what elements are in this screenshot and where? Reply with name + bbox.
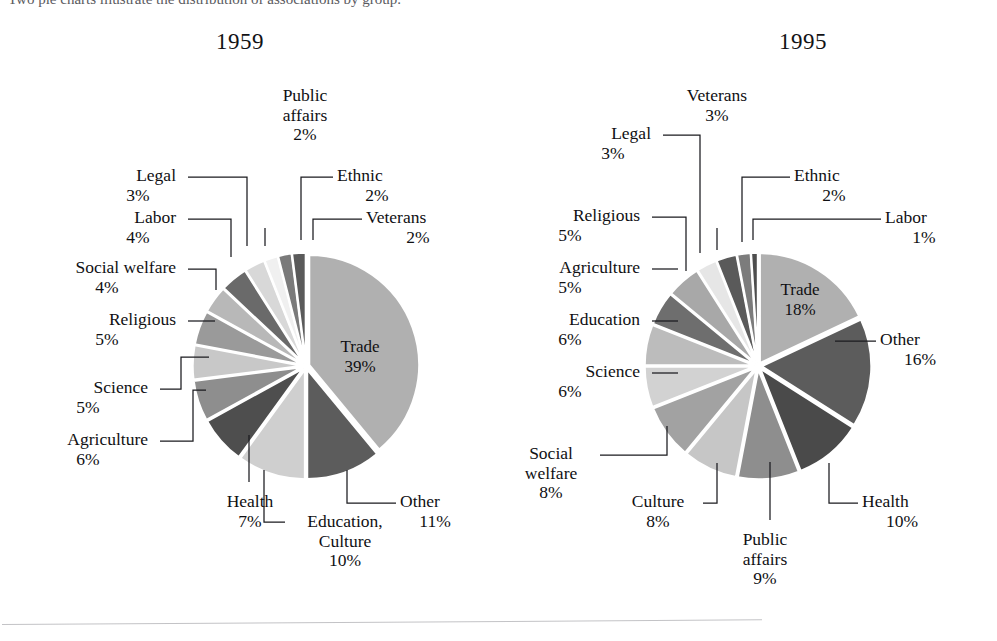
- callout-pct-other: 11%: [400, 512, 470, 532]
- callout-pct-health: 10%: [862, 512, 942, 532]
- callout-name-science: Science: [500, 362, 640, 382]
- callout-name-veterans: Veterans: [366, 208, 470, 228]
- slice-inline-label-trade: Trade: [780, 280, 819, 299]
- slice-inline-pct-trade: 39%: [344, 357, 375, 376]
- callout-pct-legal: 3%: [100, 186, 176, 206]
- callout-pct-religious: 5%: [38, 330, 176, 350]
- callout-name-ethnic: Ethnic: [794, 166, 874, 186]
- callout-pct-public-affairs: 2%: [270, 125, 340, 145]
- leader-line-social-welfare: [600, 426, 667, 455]
- callout-health: Health10%: [862, 492, 942, 531]
- callout-name-science: Science: [28, 378, 148, 398]
- callout-labor: Labor4%: [100, 208, 176, 247]
- callout-agriculture: Agriculture6%: [28, 430, 148, 469]
- callout-name-health: Health: [215, 492, 285, 512]
- callout-name-public-affairs: Public affairs: [270, 86, 340, 125]
- callout-other: Other11%: [400, 492, 470, 531]
- leader-line-ethnic: [742, 177, 790, 242]
- callout-pct-science: 6%: [500, 382, 640, 402]
- callout-name-religious: Religious: [500, 206, 640, 226]
- callout-pct-agriculture: 5%: [500, 278, 640, 298]
- leader-line-ethnic: [301, 177, 333, 240]
- callout-science: Science6%: [500, 362, 640, 401]
- leader-line-veterans: [313, 219, 362, 240]
- callout-name-other: Other: [880, 330, 960, 350]
- callout-legal: Legal3%: [575, 124, 651, 163]
- callout-name-other: Other: [400, 492, 470, 512]
- callout-culture: Culture8%: [613, 492, 703, 531]
- callout-pct-education: 10%: [290, 551, 400, 571]
- callout-religious: Religious5%: [500, 206, 640, 245]
- callout-pct-veterans: 2%: [366, 228, 470, 248]
- callout-name-social-welfare: Social welfare: [505, 444, 597, 483]
- callout-name-social-welfare: Social welfare: [38, 258, 176, 278]
- callout-pct-culture: 8%: [613, 512, 703, 532]
- callout-pct-labor: 4%: [100, 228, 176, 248]
- callout-name-legal: Legal: [100, 166, 176, 186]
- callout-agriculture: Agriculture5%: [500, 258, 640, 297]
- callout-name-veterans: Veterans: [672, 86, 762, 106]
- callout-ethnic: Ethnic2%: [337, 166, 417, 205]
- callout-name-ethnic: Ethnic: [337, 166, 417, 186]
- callout-pct-ethnic: 2%: [794, 186, 874, 206]
- callout-legal: Legal3%: [100, 166, 176, 205]
- leader-line-health: [829, 463, 858, 503]
- callout-public-affairs: Public affairs9%: [725, 530, 805, 589]
- callout-health: Health7%: [215, 492, 285, 531]
- callout-name-labor: Labor: [100, 208, 176, 228]
- callout-pct-legal: 3%: [575, 144, 651, 164]
- callout-name-education: Education: [500, 310, 640, 330]
- callout-pct-social-welfare: 8%: [505, 483, 597, 503]
- callout-pct-public-affairs: 9%: [725, 569, 805, 589]
- callout-name-public-affairs: Public affairs: [725, 530, 805, 569]
- callout-pct-social-welfare: 4%: [38, 278, 176, 298]
- leader-line-legal: [188, 177, 247, 246]
- callout-education: Education, Culture10%: [290, 512, 400, 571]
- callout-pct-labor: 1%: [885, 228, 963, 248]
- callout-name-legal: Legal: [575, 124, 651, 144]
- callout-veterans: Veterans3%: [672, 86, 762, 125]
- callout-ethnic: Ethnic2%: [794, 166, 874, 205]
- callout-name-religious: Religious: [38, 310, 176, 330]
- leader-line-other: [347, 470, 396, 503]
- callout-pct-science: 5%: [28, 398, 148, 418]
- figure-canvas: Two pie charts illustrate the distributi…: [0, 0, 997, 641]
- slice-inline-pct-trade: 18%: [784, 300, 815, 319]
- callout-religious: Religious5%: [38, 310, 176, 349]
- callout-pct-ethnic: 2%: [337, 186, 417, 206]
- callout-name-agriculture: Agriculture: [500, 258, 640, 278]
- callout-education: Education6%: [500, 310, 640, 349]
- callout-name-agriculture: Agriculture: [28, 430, 148, 450]
- slice-inline-label-trade: Trade: [340, 337, 379, 356]
- callout-name-health: Health: [862, 492, 942, 512]
- callout-public-affairs: Public affairs2%: [270, 86, 340, 145]
- callout-labor: Labor1%: [885, 208, 963, 247]
- leader-line-labor: [188, 219, 231, 257]
- callout-pct-religious: 5%: [500, 226, 640, 246]
- leader-line-social-welfare: [188, 269, 216, 290]
- pie-1995: Trade18%: [645, 253, 872, 480]
- callout-social-welfare: Social welfare8%: [505, 444, 597, 503]
- leader-line-legal: [663, 135, 700, 253]
- callout-science: Science5%: [28, 378, 148, 417]
- pie-1959: Trade39%: [193, 253, 420, 480]
- callout-veterans: Veterans2%: [366, 208, 470, 247]
- callout-pct-veterans: 3%: [672, 106, 762, 126]
- callout-other: Other16%: [880, 330, 960, 369]
- callout-social-welfare: Social welfare4%: [38, 258, 176, 297]
- callout-pct-health: 7%: [215, 512, 285, 532]
- leader-line-religious: [652, 217, 686, 271]
- callout-pct-education: 6%: [500, 330, 640, 350]
- callout-pct-other: 16%: [880, 350, 960, 370]
- callout-name-education: Education, Culture: [290, 512, 400, 551]
- callout-name-labor: Labor: [885, 208, 963, 228]
- leader-line-labor: [753, 219, 881, 240]
- callout-name-culture: Culture: [613, 492, 703, 512]
- callout-pct-agriculture: 6%: [28, 450, 148, 470]
